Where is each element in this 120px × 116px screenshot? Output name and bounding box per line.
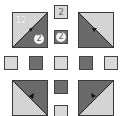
middle-square-2[interactable]: [29, 56, 43, 70]
tile-count-badge: 2: [34, 34, 44, 44]
puzzle-board: 12 2 2 2: [0, 0, 120, 116]
top-square-2[interactable]: 2: [54, 30, 68, 44]
bottom-square-1[interactable]: [54, 80, 68, 94]
top-square-1[interactable]: 2: [54, 5, 68, 19]
diagonal-split-shape: [79, 13, 113, 47]
corner-tile-bottom-right[interactable]: [78, 80, 114, 116]
diagonal-split-shape: [79, 81, 113, 115]
square-number: 2: [55, 6, 67, 18]
middle-square-1[interactable]: [4, 56, 18, 70]
middle-square-3[interactable]: [54, 56, 68, 70]
middle-square-5[interactable]: [104, 56, 118, 70]
bottom-square-2[interactable]: [54, 105, 68, 116]
corner-tile-top-right[interactable]: [78, 12, 114, 48]
middle-square-4[interactable]: [79, 56, 93, 70]
corner-tile-top-left[interactable]: 12 2: [12, 12, 48, 48]
tile-number-label: 12: [16, 16, 26, 25]
corner-tile-bottom-left[interactable]: [12, 80, 48, 116]
square-number: 2: [56, 32, 66, 42]
diagonal-split-shape: [13, 81, 47, 115]
